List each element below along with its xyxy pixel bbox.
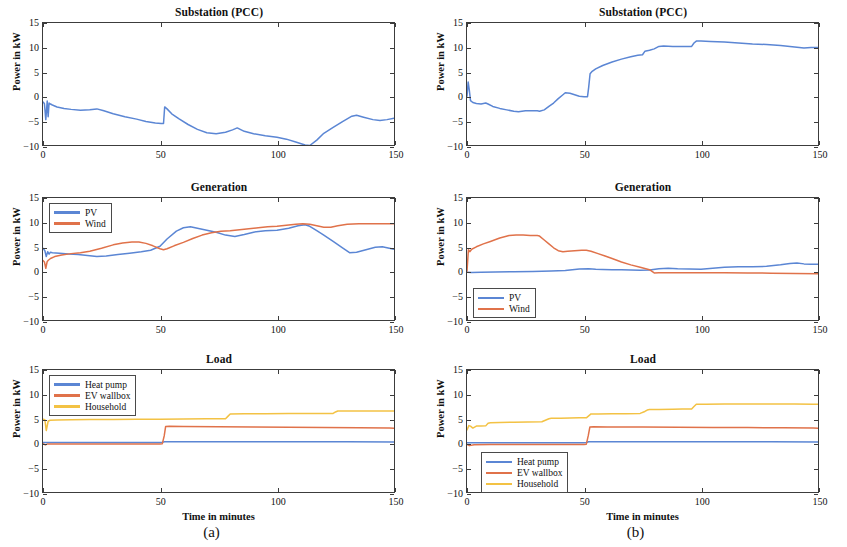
y-tick-mark (814, 444, 818, 445)
x-tick-label: 150 (800, 150, 840, 160)
x-tick-mark (278, 198, 279, 202)
y-tick-mark (43, 248, 47, 249)
x-tick-mark (161, 198, 162, 202)
y-tick-mark (814, 248, 818, 249)
x-tick-label: 100 (682, 325, 722, 335)
y-tick-mark (467, 322, 471, 323)
y-tick-mark (814, 322, 818, 323)
x-tick-mark (467, 370, 468, 374)
y-tick-mark (467, 73, 471, 74)
x-tick-mark (819, 488, 820, 492)
series-line (467, 442, 818, 443)
legend-label: EV wallbox (517, 468, 562, 478)
legend-label: Wind (85, 219, 106, 229)
legend-item[interactable]: Heat pump (486, 456, 562, 467)
subplot-a-load: Load Power in kW −10−5051015050100150Hea… (0, 347, 423, 512)
x-tick-mark (819, 198, 820, 202)
legend-item[interactable]: EV wallbox (54, 390, 130, 401)
axes-b-generation: −10−5051015050100150PVWind (466, 197, 819, 321)
legend-item[interactable]: Wind (478, 303, 530, 314)
x-tick-mark (585, 198, 586, 202)
y-tick-label: 0 (19, 92, 39, 102)
x-tick-mark (395, 23, 396, 27)
y-tick-mark (43, 322, 47, 323)
x-tick-mark (278, 370, 279, 374)
y-tick-mark (390, 395, 394, 396)
y-tick-mark (467, 97, 471, 98)
x-tick-mark (585, 370, 586, 374)
x-tick-label: 100 (258, 497, 298, 507)
y-tick-label: −5 (443, 117, 463, 127)
legend-color-swatch (478, 308, 504, 310)
y-tick-mark (43, 147, 47, 148)
x-tick-label: 0 (23, 497, 63, 507)
x-tick-mark (702, 370, 703, 374)
series-line (467, 235, 818, 274)
plot-title: Generation (466, 181, 820, 193)
legend[interactable]: Heat pumpEV wallboxHousehold (49, 375, 136, 416)
y-tick-mark (467, 420, 471, 421)
x-tick-label: 0 (447, 497, 487, 507)
x-tick-mark (395, 370, 396, 374)
legend[interactable]: PVWind (473, 288, 536, 318)
y-tick-label: 10 (443, 390, 463, 400)
x-tick-mark (467, 198, 468, 202)
x-tick-mark (278, 316, 279, 320)
legend-item[interactable]: PV (478, 292, 530, 303)
y-tick-mark (467, 272, 471, 273)
legend-color-swatch (478, 297, 504, 299)
legend-item[interactable]: Wind (54, 218, 106, 229)
legend-color-swatch (54, 211, 80, 213)
y-tick-label: 15 (19, 193, 39, 203)
legend-item[interactable]: Household (486, 478, 562, 489)
legend-item[interactable]: PV (54, 207, 106, 218)
x-tick-mark (702, 23, 703, 27)
y-tick-label: 0 (443, 439, 463, 449)
legend[interactable]: Heat pumpEV wallboxHousehold (481, 452, 568, 493)
y-tick-mark (43, 272, 47, 273)
y-tick-mark (467, 223, 471, 224)
y-tick-label: 10 (443, 43, 463, 53)
x-tick-mark (43, 370, 44, 374)
y-tick-mark (390, 73, 394, 74)
y-tick-label: 0 (443, 267, 463, 277)
x-tick-mark (43, 23, 44, 27)
y-tick-mark (390, 297, 394, 298)
subfigure-caption-b: (b) (424, 524, 847, 541)
legend-item[interactable]: EV wallbox (486, 467, 562, 478)
legend-color-swatch (54, 394, 80, 396)
y-tick-mark (814, 370, 818, 371)
x-tick-label: 50 (141, 497, 181, 507)
y-tick-mark (43, 122, 47, 123)
x-tick-mark (161, 141, 162, 145)
x-tick-mark (819, 23, 820, 27)
x-tick-label: 150 (800, 325, 840, 335)
y-tick-mark (814, 23, 818, 24)
legend[interactable]: PVWind (49, 203, 112, 233)
y-tick-mark (390, 147, 394, 148)
x-tick-label: 150 (376, 325, 416, 335)
x-tick-mark (819, 141, 820, 145)
y-tick-label: 5 (443, 243, 463, 253)
x-tick-label: 100 (682, 150, 722, 160)
x-tick-mark (395, 316, 396, 320)
axes-a-load: −10−5051015050100150Heat pumpEV wallboxH… (42, 369, 395, 493)
x-tick-mark (395, 141, 396, 145)
legend-label: Wind (509, 304, 530, 314)
x-tick-mark (702, 488, 703, 492)
y-tick-label: 15 (443, 193, 463, 203)
x-tick-label: 100 (258, 325, 298, 335)
y-tick-label: −5 (19, 117, 39, 127)
y-tick-label: 5 (19, 415, 39, 425)
y-tick-mark (43, 469, 47, 470)
axes-a-generation: −10−5051015050100150PVWind (42, 197, 395, 321)
subplot-b-substation: Substation (PCC) Power in kW −10−5051015… (424, 0, 847, 175)
legend-color-swatch (486, 461, 512, 463)
x-tick-mark (585, 23, 586, 27)
legend-item[interactable]: Household (54, 401, 130, 412)
y-tick-mark (390, 23, 394, 24)
y-tick-mark (390, 494, 394, 495)
x-tick-mark (819, 370, 820, 374)
legend-item[interactable]: Heat pump (54, 379, 130, 390)
subplot-b-generation: Generation Power in kW −10−5051015050100… (424, 175, 847, 347)
